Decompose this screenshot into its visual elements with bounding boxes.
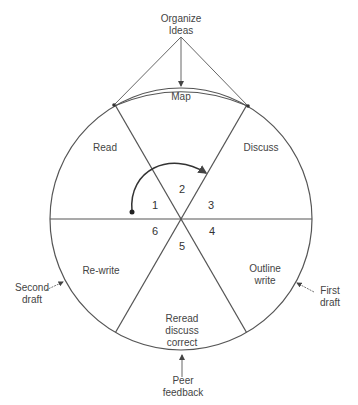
second-draft-line2: draft: [15, 294, 49, 306]
reread-line3: correct: [165, 337, 198, 349]
reread-line1: Reread: [165, 313, 198, 325]
second-draft-line1: Second: [15, 282, 49, 294]
sector-number-5: 5: [179, 240, 185, 252]
outline-line2: write: [249, 275, 281, 287]
sector-number-2: 2: [179, 183, 185, 195]
sector-outline-write-label: Outline write: [249, 263, 281, 287]
sector-reread-label: Reread discuss correct: [165, 313, 198, 349]
sector-number-1: 1: [152, 199, 158, 211]
organize-ideas-line2: Ideas: [161, 25, 202, 37]
peer-feedback-line2: feedback: [163, 387, 204, 399]
organize-ideas-label: Organize Ideas: [161, 13, 202, 37]
second-draft-label: Second draft: [15, 282, 49, 306]
peer-feedback-line1: Peer: [163, 375, 204, 387]
sector-number-3: 3: [208, 199, 214, 211]
peer-feedback-label: Peer feedback: [163, 375, 204, 399]
sector-number-6: 6: [152, 225, 158, 237]
sector-rewrite-label: Re-write: [82, 265, 119, 277]
reread-line2: discuss: [165, 325, 198, 337]
sector-discuss-label: Discuss: [243, 142, 278, 154]
sector-number-4: 4: [209, 225, 215, 237]
first-draft-line1: First: [320, 285, 340, 297]
first-draft-label: First draft: [320, 285, 340, 309]
organize-ideas-line1: Organize: [161, 13, 202, 25]
first-draft-line2: draft: [320, 297, 340, 309]
sector-map-label: Map: [171, 91, 190, 103]
writing-cycle-diagram: Organize Ideas Map Read Discuss Re-write…: [0, 0, 358, 405]
sector-read-label: Read: [93, 142, 117, 154]
outline-line1: Outline: [249, 263, 281, 275]
